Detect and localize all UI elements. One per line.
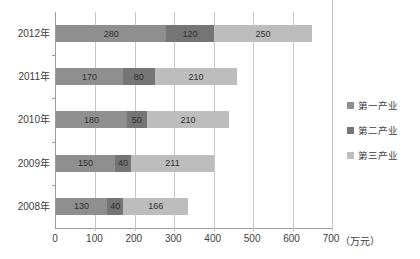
bar-value-label: 210 <box>188 72 203 82</box>
bar-segment: 120 <box>166 25 213 42</box>
y-axis-label: 2009年 <box>0 155 50 172</box>
bar-value-label: 130 <box>74 201 89 211</box>
x-axis-tick-label: 200 <box>126 233 143 244</box>
legend-item: 第三产业 <box>347 148 398 162</box>
bar-value-label: 170 <box>82 72 97 82</box>
bar-row-2010年: 18050210 <box>56 111 332 128</box>
y-axis-label: 2010年 <box>0 111 50 128</box>
legend-item: 第一产业 <box>347 98 398 112</box>
bar-value-label: 80 <box>134 72 144 82</box>
bar-segment: 170 <box>56 68 123 85</box>
bar-segment: 80 <box>123 68 155 85</box>
bar-row-2008年: 13040166 <box>56 198 332 215</box>
bar-segment: 40 <box>107 198 123 215</box>
bar-segment: 150 <box>56 155 115 172</box>
bar-value-label: 250 <box>255 29 270 39</box>
bar-segment: 210 <box>147 111 230 128</box>
bar-segment: 180 <box>56 111 127 128</box>
x-axis-tick-label: 0 <box>52 233 58 244</box>
bars: 2801202501708021018050210150402111304016… <box>56 12 332 228</box>
bar-row-2009年: 15040211 <box>56 155 332 172</box>
bar-value-label: 40 <box>118 158 128 168</box>
bar-value-label: 40 <box>110 201 120 211</box>
bar-value-label: 211 <box>165 158 179 168</box>
bar-segment: 50 <box>127 111 147 128</box>
bar-segment: 211 <box>131 155 214 172</box>
x-axis-tick-label: 700 <box>323 233 340 244</box>
bar-row-2011年: 17080210 <box>56 68 332 85</box>
legend-label: 第三产业 <box>358 148 398 162</box>
bar-value-label: 166 <box>148 201 163 211</box>
x-axis-unit-label: （万元） <box>340 233 380 248</box>
bar-row-2012年: 280120250 <box>56 25 332 42</box>
x-axis-tick-label: 400 <box>204 233 221 244</box>
bar-value-label: 150 <box>78 158 93 168</box>
bar-value-label: 120 <box>183 29 198 39</box>
bar-segment: 40 <box>115 155 131 172</box>
legend-item: 第二产业 <box>347 123 398 137</box>
y-axis-label: 2011年 <box>0 68 50 85</box>
x-axis-tick-label: 500 <box>244 233 261 244</box>
bar-value-label: 210 <box>181 115 196 125</box>
bar-value-label: 280 <box>104 29 119 39</box>
stacked-bar-chart: 2012年2011年2010年2009年2008年 28012025017080… <box>0 0 420 259</box>
bar-value-label: 180 <box>84 115 99 125</box>
gridline <box>332 0 333 231</box>
y-axis-labels: 2012年2011年2010年2009年2008年 <box>0 12 50 228</box>
bar-segment: 166 <box>123 198 188 215</box>
x-axis-tick-label: 300 <box>165 233 182 244</box>
y-axis-label: 2008年 <box>0 198 50 215</box>
y-axis-label: 2012年 <box>0 25 50 42</box>
legend: 第一产业第二产业第三产业 <box>347 98 398 162</box>
bar-segment: 210 <box>155 68 238 85</box>
legend-label: 第一产业 <box>358 98 398 112</box>
bar-segment: 250 <box>214 25 313 42</box>
x-axis-tick-label: 600 <box>283 233 300 244</box>
legend-swatch-icon <box>347 127 354 134</box>
legend-swatch-icon <box>347 102 354 109</box>
x-axis-labels: 0100200300400500600700 <box>55 233 331 247</box>
plot-area: 2801202501708021018050210150402111304016… <box>55 12 332 229</box>
bar-value-label: 50 <box>132 115 142 125</box>
x-axis-tick-label: 100 <box>86 233 103 244</box>
bar-segment: 130 <box>56 198 107 215</box>
bar-segment: 280 <box>56 25 166 42</box>
legend-swatch-icon <box>347 152 354 159</box>
legend-label: 第二产业 <box>358 123 398 137</box>
